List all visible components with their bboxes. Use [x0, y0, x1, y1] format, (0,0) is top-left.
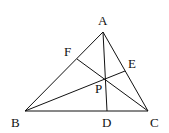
segment-AD	[103, 32, 107, 111]
label-C: C	[150, 115, 159, 130]
label-P: P	[95, 81, 102, 96]
label-F: F	[64, 44, 71, 59]
label-E: E	[128, 56, 136, 71]
label-B: B	[11, 115, 20, 130]
segment-AC	[103, 32, 148, 111]
label-A: A	[98, 13, 108, 28]
point-labels: ABCDEFP	[11, 13, 159, 130]
segment-BE	[25, 71, 125, 111]
triangle-diagram: ABCDEFP	[0, 0, 169, 133]
segment-CF	[77, 59, 148, 111]
label-D: D	[102, 115, 111, 130]
segments	[25, 32, 148, 111]
